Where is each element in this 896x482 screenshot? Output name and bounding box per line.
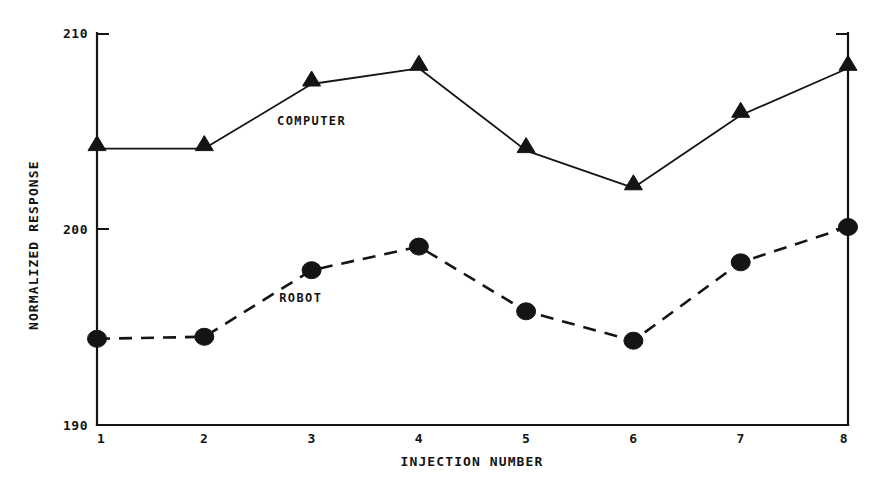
series-annotation-robot: ROBOT: [279, 291, 322, 305]
y-axis-title: NORMALIZED RESPONSE: [26, 160, 41, 330]
data-point-robot-6: [624, 332, 643, 349]
x-tick-label-3: 3: [307, 431, 315, 446]
y-tick-label-200: 200: [63, 222, 88, 237]
x-tick-label-1: 1: [97, 431, 105, 446]
data-point-robot-5: [517, 303, 536, 320]
line-chart: 210 200 190 NORMALIZED RESPONSE 12345678…: [0, 0, 896, 482]
x-tick-label-6: 6: [629, 431, 637, 446]
data-point-robot-2: [195, 328, 214, 345]
data-point-robot-1: [88, 330, 107, 347]
data-point-robot-4: [409, 238, 428, 255]
data-point-robot-3: [302, 262, 321, 279]
y-tick-label-210: 210: [63, 26, 88, 41]
y-tick-label-190: 190: [63, 418, 88, 433]
x-axis-title: INJECTION NUMBER: [401, 454, 544, 469]
x-tick-label-4: 4: [415, 431, 423, 446]
chart-background: [0, 0, 896, 482]
data-point-robot-8: [839, 219, 858, 236]
x-tick-label-8: 8: [840, 431, 848, 446]
x-tick-label-5: 5: [522, 431, 530, 446]
x-tick-label-2: 2: [200, 431, 208, 446]
x-tick-label-7: 7: [737, 431, 745, 446]
chart-figure: 210 200 190 NORMALIZED RESPONSE 12345678…: [0, 0, 896, 482]
series-annotation-computer: COMPUTER: [277, 114, 346, 128]
data-point-robot-7: [731, 254, 750, 271]
